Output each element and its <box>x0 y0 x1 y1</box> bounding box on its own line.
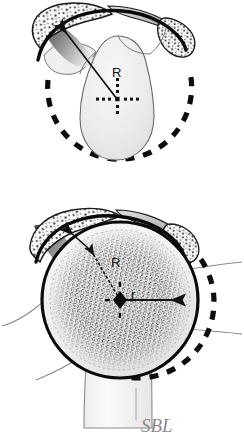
radius-label-R-top: R <box>112 65 121 80</box>
anatomical-figure: R <box>0 0 244 444</box>
artist-signature: SBL <box>141 415 173 436</box>
radius-label-R-bottom: R <box>111 255 120 270</box>
radius-label-r-bottom: r <box>131 287 136 302</box>
shoulder-diagram-canvas: R <box>0 0 244 444</box>
